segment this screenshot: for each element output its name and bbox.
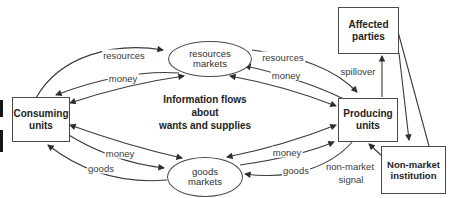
label-money-bottom-right: money — [272, 147, 303, 158]
line-affected-to-nonmarket-secondary — [397, 28, 429, 146]
nonmarket-institution-label-2: institution — [391, 170, 437, 181]
diagram-canvas: Consuming units Producing units Affected… — [0, 0, 453, 198]
label-nonmarket-signal-1: non-market — [325, 161, 375, 172]
label-spillover: spillover — [340, 66, 377, 77]
producing-units-label-1: Producing — [343, 108, 392, 120]
label-goods-bottom-left: goods — [87, 163, 115, 174]
affected-parties-box: Affected parties — [338, 7, 399, 54]
label-money-left: money — [108, 73, 139, 84]
goods-markets-ellipse: goods markets — [167, 157, 243, 197]
nonmarket-institution-label-1: Non-market — [387, 159, 440, 170]
label-money-bottom-left: money — [105, 148, 136, 159]
nonmarket-institution-box: Non-market institution — [381, 146, 446, 194]
resources-markets-label-2: markets — [193, 59, 227, 69]
center-information-line-1: Information flows — [159, 93, 251, 106]
resources-markets-ellipse: resources markets — [168, 41, 252, 77]
affected-parties-label-2: parties — [352, 31, 385, 43]
center-information-text: Information flows about wants and suppli… — [159, 93, 251, 132]
consuming-units-label-1: Consuming — [14, 108, 69, 120]
label-money-right: money — [271, 70, 302, 81]
goods-markets-label-2: markets — [188, 177, 222, 187]
label-goods-bottom-right: goods — [282, 165, 310, 176]
consuming-units-box: Consuming units — [12, 97, 70, 142]
label-resources-left: resources — [102, 50, 146, 61]
affected-parties-label-1: Affected — [348, 19, 388, 31]
producing-units-box: Producing units — [338, 98, 398, 142]
page-edge-artifact-bottom — [0, 130, 3, 152]
consuming-units-label-2: units — [29, 120, 53, 132]
center-information-line-2: about — [159, 106, 251, 119]
page-edge-artifact-top — [0, 100, 3, 117]
producing-units-label-2: units — [356, 120, 380, 132]
label-nonmarket-signal-2: signal — [338, 174, 365, 185]
label-resources-right: resources — [261, 52, 305, 63]
center-information-line-3: wants and supplies — [159, 119, 251, 132]
